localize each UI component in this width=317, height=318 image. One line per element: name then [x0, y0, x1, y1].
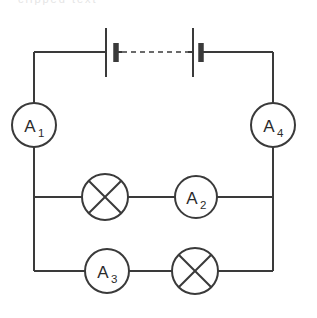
ammeter-A3: A 3	[85, 249, 129, 293]
lamp-L1	[82, 174, 128, 220]
ammeter-A1: A 1	[12, 103, 56, 147]
ammeter-A4-letter: A	[263, 117, 275, 136]
ammeter-A4-subscript: 4	[277, 127, 284, 139]
ammeter-A1-subscript: 1	[38, 127, 44, 139]
lamp-L2	[172, 248, 218, 294]
ammeter-A2-subscript: 2	[200, 199, 206, 211]
ammeter-A3-subscript: 3	[111, 273, 117, 285]
ammeter-A4: A 4	[251, 103, 295, 147]
ammeter-A1-letter: A	[24, 117, 36, 136]
ammeter-A2: A 2	[175, 176, 217, 218]
battery-cell-right	[193, 28, 201, 77]
circuit-diagram-canvas: clipped text	[0, 0, 317, 318]
battery-cell-left	[106, 28, 116, 77]
ammeter-A2-letter: A	[186, 189, 198, 208]
ammeter-A3-letter: A	[97, 263, 109, 282]
circuit-schematic: A 1 A 4 A 2	[0, 0, 317, 318]
